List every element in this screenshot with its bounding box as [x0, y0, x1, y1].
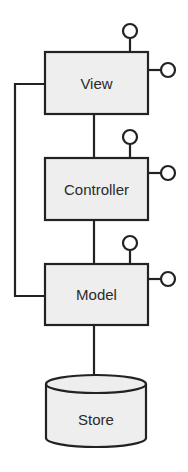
node-label-view: View	[80, 75, 112, 92]
interface-lollipop-icon	[161, 63, 175, 77]
interface-lollipop-icon	[161, 166, 175, 180]
node-view[interactable]: View	[45, 24, 175, 114]
interface-lollipop-icon	[123, 130, 137, 144]
node-controller[interactable]: Controller	[45, 130, 175, 220]
node-label-model: Model	[76, 286, 117, 303]
node-label-store: Store	[78, 411, 114, 428]
interface-lollipop-icon	[161, 272, 175, 286]
node-store[interactable]: Store	[46, 375, 146, 447]
interface-lollipop-icon	[123, 236, 137, 250]
mvc-diagram: View Controller Model Store	[0, 0, 188, 472]
node-model[interactable]: Model	[45, 236, 175, 325]
node-label-controller: Controller	[64, 181, 129, 198]
interface-lollipop-icon	[123, 24, 137, 38]
edge-view-model	[15, 84, 45, 296]
